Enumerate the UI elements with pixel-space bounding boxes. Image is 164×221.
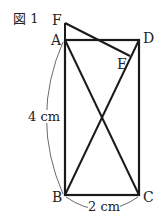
point-label-c: C [143,190,154,204]
figure-caption: 図 1 [13,12,38,25]
point-label-d: D [143,31,154,45]
height-dimension-label: 4 cm [28,110,60,123]
point-label-f: F [52,13,62,27]
geometry-figure: 図 1 F A D E B C 4 cm 2 cm [0,0,164,221]
point-label-b: B [52,190,62,204]
point-label-e: E [117,57,127,71]
point-label-a: A [51,33,61,47]
figure-drawing [0,0,164,221]
width-dimension-label: 2 cm [88,200,120,213]
